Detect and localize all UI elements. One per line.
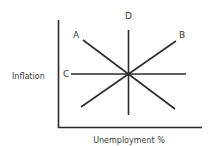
- x-axis-label: Unemployment %: [93, 136, 165, 145]
- line-d-label: D: [125, 11, 132, 21]
- phillips-curve-diagram: A B C D Inflation Unemployment %: [0, 0, 211, 146]
- line-a-label: A: [73, 30, 80, 40]
- line-b-label: B: [179, 30, 185, 40]
- y-axis-label: Inflation: [12, 72, 45, 81]
- line-c-label: C: [63, 69, 69, 79]
